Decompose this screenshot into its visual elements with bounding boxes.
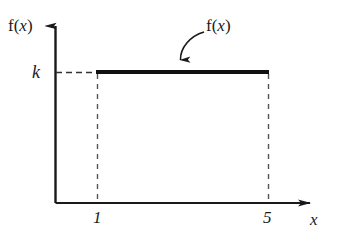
y-axis-label-paren-close: )	[27, 16, 33, 35]
uniform-distribution-figure: f(x) f(x) k 1 5 x	[0, 0, 339, 244]
x-tick-label-1: 1	[93, 209, 102, 226]
x-axis-label: x	[310, 211, 318, 228]
curve-label-var: x	[217, 16, 225, 35]
y-axis-label-var: x	[19, 16, 27, 35]
x-tick-label-5: 5	[263, 209, 272, 226]
curve-label-paren-close: )	[225, 16, 231, 35]
curve-annotation-label: f(x)	[206, 17, 231, 34]
plot-canvas	[0, 0, 339, 244]
annotation-leader-arrow	[180, 32, 204, 60]
y-axis-label: f(x)	[8, 17, 33, 34]
y-tick-label-k: k	[32, 63, 40, 81]
